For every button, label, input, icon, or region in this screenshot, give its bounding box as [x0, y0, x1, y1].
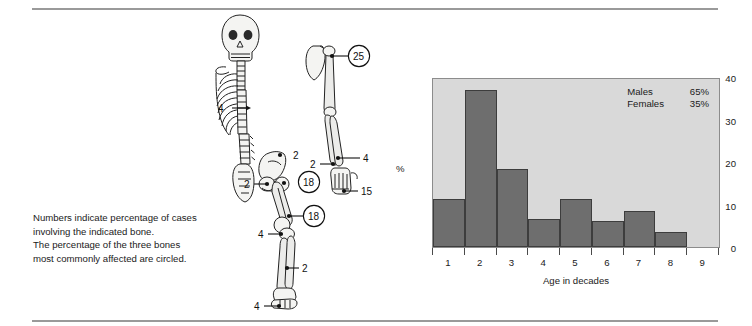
annotation-label-foot: 4	[254, 301, 260, 312]
x-tick-mark-edge-6	[623, 248, 624, 255]
legend-value-females: 35%	[682, 98, 709, 110]
legend-value-males: 65%	[682, 86, 709, 98]
x-axis-title: Age in decades	[432, 275, 720, 286]
x-tick-label-3: 3	[509, 257, 514, 268]
legend-row-males: Males 65%	[627, 86, 709, 98]
bottom-divider	[32, 320, 718, 322]
plot-area: Males 65% Females 35%	[432, 78, 720, 248]
x-tick-label-2: 2	[477, 257, 482, 268]
cervical-spine-graphic	[237, 61, 245, 90]
annotation-label-femoral-neck: 18	[303, 177, 315, 188]
skull-graphic	[222, 15, 259, 61]
y-axis-title: %	[396, 163, 405, 174]
skeleton-svg: 4	[196, 12, 386, 312]
bar-decade-7[interactable]	[624, 211, 656, 247]
x-tick-label-8: 8	[668, 257, 673, 268]
bar-decade-5[interactable]	[560, 199, 592, 247]
tibia-fibula-graphic	[277, 236, 295, 292]
annotation-label-tibia-shaft: 2	[302, 263, 308, 274]
annotation-label-hand: 15	[361, 186, 373, 197]
bar-decade-3[interactable]	[497, 169, 529, 247]
x-tick-mark-edge-1	[464, 248, 465, 255]
x-tick-label-7: 7	[636, 257, 641, 268]
x-tick-mark-edge-5	[591, 248, 592, 255]
x-tick-mark-edge-0	[432, 248, 433, 255]
annotation-label-forearm-proximal: 2	[310, 159, 316, 170]
x-tick-label-4: 4	[541, 257, 546, 268]
annotation-label-spine: 4	[218, 103, 224, 114]
x-tick-mark-edge-4	[559, 248, 560, 255]
x-tick-label-6: 6	[604, 257, 609, 268]
x-tick-mark-edge-9	[718, 248, 719, 255]
skeleton-diagram: 4	[196, 12, 386, 312]
annotation-label-tibia-proximal: 18	[308, 211, 320, 222]
annotation-label-knee: 4	[258, 229, 264, 240]
bar-decade-4[interactable]	[528, 219, 560, 247]
thoracolumbar-spine-graphic	[237, 90, 255, 164]
annotation-tibia-proximal: 18	[287, 205, 325, 226]
annotation-humerus-proximal: 25	[330, 45, 370, 66]
chart-legend: Males 65% Females 35%	[627, 86, 709, 111]
x-tick-mark-edge-7	[654, 248, 655, 255]
legend-label-females: Females	[627, 98, 664, 110]
x-tick-label-9: 9	[699, 257, 704, 268]
bar-decade-2[interactable]	[465, 90, 497, 247]
x-tick-mark-edge-8	[686, 248, 687, 255]
legend-row-females: Females 35%	[627, 98, 709, 110]
bar-decade-8[interactable]	[655, 232, 687, 247]
bar-decade-1[interactable]	[433, 199, 465, 247]
legend-label-males: Males	[627, 86, 653, 98]
x-tick-mark-edge-2	[496, 248, 497, 255]
x-tick-mark-edge-3	[527, 248, 528, 255]
page-canvas: Numbers indicate percentage of cases inv…	[0, 0, 752, 326]
annotation-label-pelvis-upper: 2	[293, 150, 299, 161]
age-distribution-bar-chart: % 40 30 20 10 0 Males 65%	[396, 70, 736, 290]
annotation-label-forearm-distal: 4	[363, 153, 369, 164]
top-divider	[32, 8, 718, 10]
annotation-label-humerus: 25	[353, 51, 365, 62]
x-tick-label-1: 1	[445, 257, 450, 268]
bar-decade-6[interactable]	[592, 221, 624, 247]
x-tick-label-5: 5	[572, 257, 577, 268]
annotation-label-pelvis-lower: 2	[244, 179, 250, 190]
